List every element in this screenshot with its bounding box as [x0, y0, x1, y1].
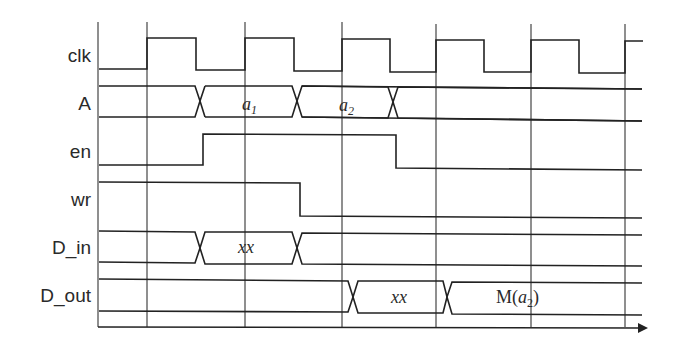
signal-label-d-in: D_in: [52, 237, 91, 259]
arrow-right-icon: [638, 323, 648, 333]
wr-waveform: [99, 182, 642, 218]
time-axis: [98, 323, 648, 333]
a-value-1: a1: [242, 94, 257, 117]
clk-waveform: [99, 38, 643, 73]
a-bus-waveform: [99, 86, 642, 121]
d-out-value-1: xx: [390, 287, 407, 307]
signal-label-en: en: [70, 141, 91, 162]
d-out-bus-waveform: [99, 279, 642, 315]
signal-label-d-out: D_out: [40, 285, 91, 307]
signal-label-clk: clk: [68, 45, 92, 66]
d-in-value: xx: [237, 237, 254, 257]
a-value-2: a2: [339, 95, 354, 118]
d-in-bus-waveform: [99, 231, 642, 266]
signal-label-a: A: [78, 93, 91, 114]
timing-diagram: clk A en wr D_in D_out a1 a2 xx xx M(a2): [0, 0, 677, 351]
d-out-value-2: M(a2): [496, 287, 539, 310]
en-waveform: [99, 134, 642, 170]
signal-label-wr: wr: [70, 189, 92, 210]
